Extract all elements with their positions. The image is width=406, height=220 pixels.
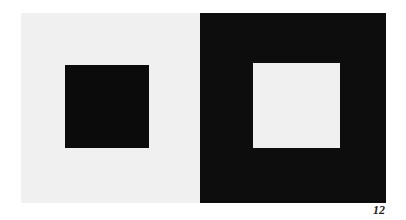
dark-square bbox=[65, 65, 149, 148]
light-background-panel bbox=[21, 13, 200, 203]
light-square bbox=[253, 63, 340, 148]
plate-number: 12 bbox=[373, 203, 385, 217]
dark-background-panel bbox=[200, 13, 386, 203]
